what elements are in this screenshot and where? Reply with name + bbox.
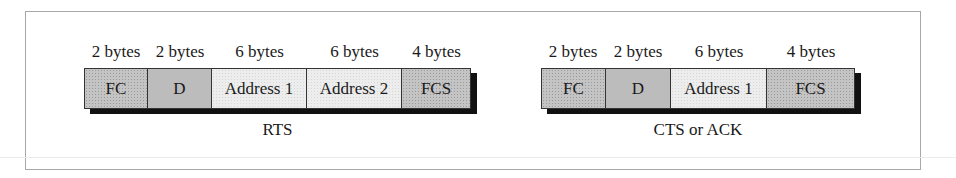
scan-line [0,157,956,158]
field-d: D [606,68,671,109]
size-label-address1: 6 bytes [212,42,307,62]
cts-ack-field-bar: FC D Address 1 FCS [541,68,855,109]
field-address1: Address 1 [212,68,307,109]
size-label-d: 2 bytes [598,42,678,62]
size-label-fcs: 4 bytes [402,42,471,62]
rts-caption: RTS [84,120,471,140]
field-address2: Address 2 [307,68,402,109]
size-label-d: 2 bytes [140,42,220,62]
cts-ack-frame-diagram: 2 bytes 2 bytes 6 bytes 4 bytes FC D Add… [541,42,871,142]
field-address1: Address 1 [671,68,767,109]
field-fc: FC [84,68,148,109]
cts-ack-caption: CTS or ACK [541,120,855,140]
size-label-fcs: 4 bytes [767,42,855,62]
field-fcs: FCS [402,68,471,109]
size-label-address2: 6 bytes [307,42,402,62]
size-label-address1: 6 bytes [671,42,767,62]
rts-field-bar: FC D Address 1 Address 2 FCS [84,68,471,109]
rts-frame-diagram: 2 bytes 2 bytes 6 bytes 6 bytes 4 bytes … [84,42,484,142]
field-fcs: FCS [767,68,855,109]
field-fc: FC [541,68,606,109]
field-d: D [148,68,212,109]
